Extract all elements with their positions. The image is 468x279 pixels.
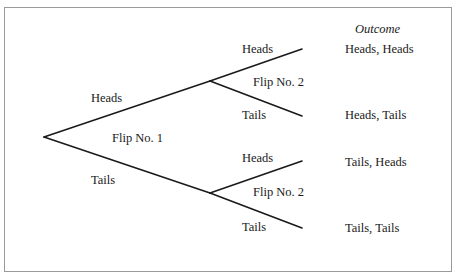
flip2-lower-heads-label: Heads — [242, 151, 273, 165]
branch-flip1-tails — [44, 137, 210, 193]
flip2-lower-label: Flip No. 2 — [253, 185, 304, 199]
flip1-tails-label: Tails — [91, 173, 115, 187]
outcome-header: Outcome — [355, 22, 400, 36]
flip2-upper-heads-label: Heads — [242, 42, 273, 56]
outcome-heads-heads: Heads, Heads — [345, 42, 414, 56]
outcome-heads-tails: Heads, Tails — [345, 108, 406, 122]
flip2-upper-label: Flip No. 2 — [253, 75, 304, 89]
flip1-label: Flip No. 1 — [112, 131, 163, 145]
flip2-upper-tails-label: Tails — [242, 108, 266, 122]
outcome-tails-tails: Tails, Tails — [345, 221, 399, 235]
branch-flip1-heads — [44, 81, 210, 137]
flip2-lower-tails-label: Tails — [242, 220, 266, 234]
outcome-tails-heads: Tails, Heads — [345, 155, 407, 169]
flip1-heads-label: Heads — [91, 91, 122, 105]
